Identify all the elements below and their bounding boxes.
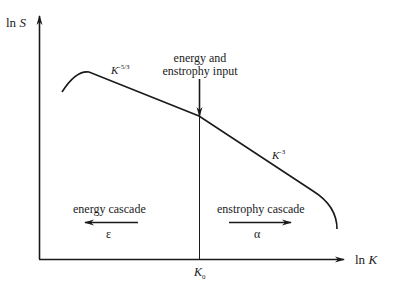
x-axis-label: ln K (355, 253, 377, 266)
energy-cascade-symbol: ε (106, 228, 111, 240)
input-label-line2: enstrophy input (150, 65, 250, 78)
slope-right-label: K-3 (272, 150, 285, 161)
y-axis-label: ln S (6, 16, 26, 29)
energy-cascade-label: energy cascade (73, 203, 146, 215)
slope-left-exponent: -5/3 (118, 63, 129, 71)
k0-label-var: K (194, 265, 202, 279)
x-axis-label-var: K (368, 252, 377, 267)
enstrophy-cascade-symbol: α (254, 228, 260, 240)
x-axis-label-prefix: ln (355, 252, 365, 267)
enstrophy-cascade-label: enstrophy cascade (217, 203, 305, 215)
y-axis-label-var: S (19, 15, 26, 30)
spectrum-diagram (0, 0, 394, 291)
slope-left-label: K-5/3 (111, 65, 130, 76)
k0-label-subscript: 0 (202, 273, 206, 281)
input-label: energy and enstrophy input (150, 52, 250, 78)
k0-label: K0 (194, 266, 206, 278)
slope-right-exponent: -3 (279, 148, 285, 156)
y-axis-label-prefix: ln (6, 15, 16, 30)
